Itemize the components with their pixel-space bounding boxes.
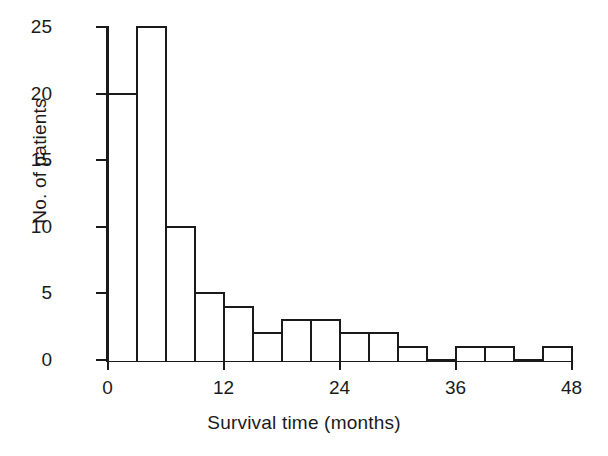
y-tick-10 [96, 226, 107, 228]
histogram-bar [165, 226, 196, 361]
y-tick-15 [96, 159, 107, 161]
x-tick-label-12: 12 [194, 378, 254, 398]
x-tick-label-0: 0 [78, 378, 138, 398]
x-tick-label-24: 24 [310, 378, 370, 398]
x-tick-label-36: 36 [426, 378, 486, 398]
y-tick-label-20: 20 [0, 84, 52, 103]
histogram-bar [281, 319, 312, 361]
x-tick-12 [223, 359, 225, 370]
histogram-bar [136, 26, 167, 361]
y-tick-25 [96, 26, 107, 28]
histogram-bar [194, 292, 225, 361]
x-axis-title: Survival time (months) [0, 412, 608, 434]
histogram-bar [339, 332, 370, 361]
x-tick-48 [571, 359, 573, 370]
y-tick-label-25: 25 [0, 17, 52, 36]
histogram-bar [310, 319, 341, 361]
y-tick-label-10: 10 [0, 217, 52, 236]
x-tick-24 [339, 359, 341, 370]
y-axis-line [106, 26, 109, 362]
y-tick-label-5: 5 [0, 283, 52, 302]
y-tick-label-15: 15 [0, 150, 52, 169]
y-tick-label-0: 0 [0, 350, 52, 369]
histogram-figure: No. of patients 0510152025 012243648 Sur… [0, 0, 608, 456]
y-tick-5 [96, 292, 107, 294]
histogram-bar [223, 306, 254, 361]
x-tick-label-48: 48 [542, 378, 602, 398]
histogram-bar [107, 93, 138, 361]
x-tick-36 [455, 359, 457, 370]
histogram-bar [252, 332, 283, 361]
x-tick-0 [107, 359, 109, 370]
histogram-bar [368, 332, 399, 361]
y-tick-20 [96, 93, 107, 95]
